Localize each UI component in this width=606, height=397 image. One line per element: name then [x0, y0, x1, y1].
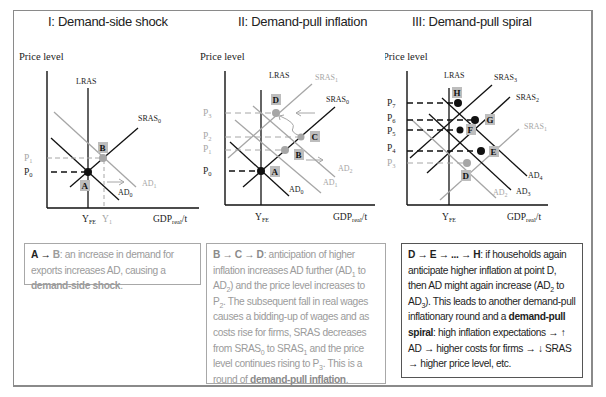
ad0-label: AD0 — [118, 188, 133, 198]
ad2-label: AD2 — [493, 188, 508, 198]
caption-bold: demand-pull inflation — [250, 374, 346, 385]
point-d-label: D — [273, 95, 280, 105]
point-d — [463, 159, 471, 167]
sras2-label: SRAS2 — [516, 93, 539, 103]
price-label-p3: P3 — [203, 108, 212, 119]
lras-label: LRAS — [269, 71, 289, 80]
price-label-p6: P6 — [387, 113, 396, 124]
sras3-label: SRAS3 — [494, 73, 517, 83]
ad1-curve — [54, 112, 136, 187]
price-label-p1: P1 — [203, 144, 212, 155]
price-label-p7: P7 — [387, 98, 396, 109]
point-c — [298, 134, 305, 141]
panel-2-chart: Price level LRAS SRAS1 SRAS0 AD0 AD1 AD2… — [200, 50, 400, 235]
point-c-label: C — [312, 132, 319, 142]
sras1-label: SRAS1 — [524, 122, 547, 132]
lras-label: LRAS — [444, 71, 464, 80]
price-label-p4: P4 — [387, 143, 396, 154]
point-f-label: F — [468, 125, 474, 135]
point-g — [471, 116, 479, 124]
point-a-label: A — [272, 167, 279, 177]
point-a-label: A — [82, 181, 89, 191]
panel-1-caption: A → B: an increase in demand for exports… — [24, 243, 201, 285]
y-axis-label: Price level — [19, 51, 64, 62]
y-axis-label: Price level — [200, 51, 245, 62]
ad2-curve — [253, 106, 335, 177]
caption-lead-a: A — [31, 249, 38, 260]
caption-lead: B → C → D — [213, 249, 264, 260]
point-d-label: D — [463, 171, 470, 181]
y-axis-label: Price level — [385, 51, 428, 62]
price-label-p0: P0 — [203, 166, 212, 177]
ad1-label: AD1 — [323, 178, 338, 188]
panel-1-chart: Price level LRAS SRAS0 AD0 AD1 A B P1 P0… — [14, 50, 204, 235]
ad2-label: AD2 — [338, 164, 353, 174]
caption-text: to SRAS — [264, 343, 303, 354]
ad1-label: AD1 — [142, 179, 157, 189]
point-b-label: B — [100, 143, 106, 153]
price-label-p1: P1 — [24, 153, 33, 164]
price-label-p5: P5 — [387, 126, 396, 137]
point-b — [99, 154, 107, 162]
point-e — [477, 147, 485, 155]
caption-arrow: → — [41, 249, 51, 260]
sras1-label: SRAS1 — [315, 73, 338, 83]
point-a — [257, 167, 265, 175]
point-b-label: B — [296, 150, 302, 160]
point-b — [281, 146, 289, 154]
caption-bold: demand-side shock — [31, 280, 120, 291]
price-label-p2: P2 — [203, 131, 212, 142]
panel-3-chart: Price level LRAS SRAS3 SRAS2 SRAS1 AD4 A… — [385, 50, 590, 235]
point-h — [454, 99, 462, 107]
point-f — [457, 127, 464, 134]
caption-lead: D → E → ... → H — [408, 249, 480, 260]
x-axis-label: GDPreal/t — [333, 212, 367, 223]
caption-end: . — [120, 280, 122, 291]
sras0-label: SRAS0 — [326, 95, 349, 105]
x-tick-yfe: YFE — [255, 212, 269, 223]
ad4-label: AD4 — [528, 171, 543, 181]
point-a — [84, 168, 92, 176]
x-tick-yfe: YFE — [82, 214, 96, 225]
ad2-curve — [412, 120, 496, 198]
panel-3-caption: D → E → ... → H: if households again ant… — [401, 243, 583, 378]
sras1-curve — [440, 129, 519, 200]
caption-text: : high inflation expectations → ↑ AD → h… — [408, 327, 571, 369]
point-h-label: H — [454, 88, 461, 98]
panel-3-title: III: Demand-pull spiral — [412, 14, 532, 29]
sras0-curve — [243, 107, 335, 187]
caption-end: . — [346, 374, 348, 385]
point-e-label: E — [491, 147, 497, 157]
price-label-p3: P3 — [387, 158, 396, 169]
panel-2-title: II: Demand-pull inflation — [238, 14, 367, 29]
x-tick-y1: Y1 — [102, 214, 112, 225]
panel-2-caption: B → C → D: anticipation of higher inflat… — [206, 243, 386, 384]
x-axis-label: GDPreal/t — [507, 212, 541, 223]
price-label-p0: P0 — [24, 167, 33, 178]
panel-1-title: I: Demand-side shock — [48, 14, 168, 29]
caption-lead-b: B — [53, 249, 60, 260]
lras-label: LRAS — [76, 77, 96, 86]
point-d — [272, 109, 280, 117]
sras0-label: SRAS0 — [138, 114, 161, 124]
ad3-label: AD3 — [516, 187, 531, 197]
x-tick-yfe: YFE — [442, 212, 456, 223]
sras3-curve — [410, 85, 492, 158]
x-axis-label: GDPreal/t — [153, 214, 187, 225]
ad0-label: AD0 — [289, 185, 304, 195]
point-g-label: G — [487, 115, 494, 125]
